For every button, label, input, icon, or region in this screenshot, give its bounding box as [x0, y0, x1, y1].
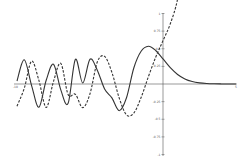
y-tick-label: 0.25 [154, 64, 161, 68]
y-tick-label: 1 [159, 12, 161, 16]
x-tick-label-max: 5 [235, 85, 237, 89]
x-axis: -10 5 [13, 84, 237, 89]
y-tick-label: -0.75 [153, 135, 161, 139]
y-tick-label: -0.5 [155, 117, 161, 121]
chart: -10 5 10.750.50.25-0.25-0.5-0.75-1 [0, 0, 249, 166]
y-tick-label: 0.75 [154, 29, 161, 33]
y-tick-label: -1 [158, 153, 161, 157]
x-tick-label-min: -10 [13, 85, 18, 89]
series-ai-solid [17, 46, 236, 110]
y-tick-label: -0.25 [153, 100, 161, 104]
